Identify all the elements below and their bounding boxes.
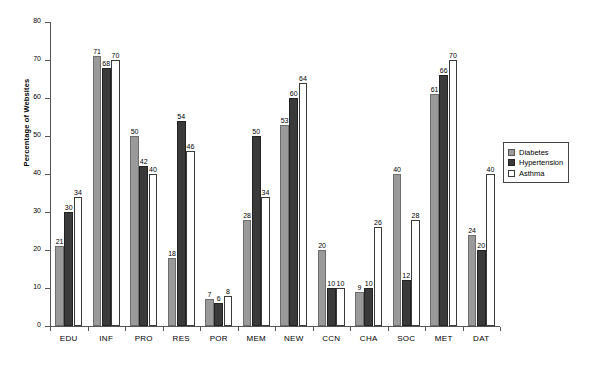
y-tick-60: 60	[45, 98, 50, 99]
x-label-ccn: CCN	[322, 334, 340, 343]
y-tick-label: 10	[33, 283, 41, 290]
bar-value-label: 50	[252, 128, 260, 136]
bar-new-asthma: 64	[299, 83, 308, 326]
bar-ccn-diabetes: 20	[318, 250, 327, 326]
bar-group-soc: 401228	[393, 22, 420, 326]
bar-group-por: 768	[205, 22, 232, 326]
bar-met-diabetes: 61	[430, 94, 439, 326]
bar-value-label: 40	[487, 166, 495, 174]
bar-value-label: 24	[468, 227, 476, 235]
bar-res-diabetes: 18	[168, 258, 177, 326]
bar-edu-hypertension: 30	[64, 212, 73, 326]
y-axis-line	[50, 22, 51, 327]
bar-chart: Percentage of Websites 01020304050607080…	[0, 0, 590, 375]
y-tick-label: 60	[33, 93, 41, 100]
x-tick	[500, 327, 501, 331]
bar-value-label: 71	[93, 48, 101, 56]
y-tick-20: 20	[45, 250, 50, 251]
bar-value-label: 8	[226, 288, 230, 296]
bar-dat-asthma: 40	[486, 174, 495, 326]
legend-item-hypertension[interactable]: Hypertension	[508, 158, 563, 167]
bar-value-label: 70	[449, 52, 457, 60]
x-tick	[275, 327, 276, 331]
bar-group-new: 536064	[280, 22, 307, 326]
bar-met-hypertension: 66	[439, 75, 448, 326]
y-tick-80: 80	[45, 22, 50, 23]
bar-value-label: 46	[187, 143, 195, 151]
bar-inf-hypertension: 68	[102, 68, 111, 326]
legend-swatch-icon	[508, 149, 515, 156]
x-tick	[425, 327, 426, 331]
bar-value-label: 66	[440, 67, 448, 75]
bar-value-label: 6	[217, 295, 221, 303]
bar-group-met: 616670	[430, 22, 457, 326]
bar-por-asthma: 8	[224, 296, 233, 326]
x-label-mem: MEM	[246, 334, 266, 343]
bar-res-asthma: 46	[186, 151, 195, 326]
bar-value-label: 7	[208, 291, 212, 299]
bar-value-label: 18	[168, 250, 176, 258]
bar-group-edu: 213034	[55, 22, 82, 326]
x-label-por: POR	[210, 334, 228, 343]
x-label-dat: DAT	[473, 334, 489, 343]
y-tick-label: 70	[33, 55, 41, 62]
x-tick	[350, 327, 351, 331]
bar-soc-asthma: 28	[411, 220, 420, 326]
bar-group-pro: 504240	[130, 22, 157, 326]
x-label-res: RES	[173, 334, 190, 343]
x-label-cha: CHA	[360, 334, 378, 343]
bar-value-label: 12	[402, 272, 410, 280]
bar-value-label: 50	[131, 128, 139, 136]
legend-label: Diabetes	[519, 148, 549, 157]
bar-met-asthma: 70	[449, 60, 458, 326]
bar-edu-diabetes: 21	[55, 246, 64, 326]
bar-ccn-asthma: 10	[336, 288, 345, 326]
bar-inf-diabetes: 71	[93, 56, 102, 326]
bar-value-label: 64	[299, 75, 307, 83]
chart-legend: DiabetesHypertensionAsthma	[503, 142, 569, 183]
bar-dat-diabetes: 24	[468, 235, 477, 326]
x-label-new: NEW	[284, 334, 304, 343]
bar-value-label: 70	[112, 52, 120, 60]
bar-value-label: 34	[74, 189, 82, 197]
bar-group-dat: 242040	[468, 22, 495, 326]
bar-por-diabetes: 7	[205, 299, 214, 326]
legend-item-asthma[interactable]: Asthma	[508, 169, 563, 178]
bar-value-label: 28	[412, 212, 420, 220]
y-tick-label: 0	[37, 321, 41, 328]
bar-value-label: 10	[337, 280, 345, 288]
x-label-soc: SOC	[397, 334, 415, 343]
bar-soc-diabetes: 40	[393, 174, 402, 326]
bar-group-ccn: 201010	[318, 22, 345, 326]
x-tick	[50, 327, 51, 331]
bar-value-label: 26	[374, 219, 382, 227]
bar-value-label: 54	[177, 113, 185, 121]
bar-value-label: 10	[327, 280, 335, 288]
x-label-pro: PRO	[135, 334, 153, 343]
x-label-inf: INF	[99, 334, 113, 343]
x-tick	[200, 327, 201, 331]
x-tick	[463, 327, 464, 331]
x-tick	[313, 327, 314, 331]
legend-item-diabetes[interactable]: Diabetes	[508, 148, 563, 157]
bar-pro-hypertension: 42	[139, 166, 148, 326]
x-tick	[238, 327, 239, 331]
bar-edu-asthma: 34	[74, 197, 83, 326]
bar-new-diabetes: 53	[280, 125, 289, 326]
bar-value-label: 28	[243, 212, 251, 220]
bar-dat-hypertension: 20	[477, 250, 486, 326]
x-tick	[125, 327, 126, 331]
y-tick-10: 10	[45, 288, 50, 289]
bar-value-label: 40	[393, 166, 401, 174]
y-tick-label: 40	[33, 169, 41, 176]
y-axis-title: Percentage of Websites	[22, 33, 31, 213]
legend-swatch-icon	[508, 159, 515, 166]
bar-res-hypertension: 54	[177, 121, 186, 326]
bar-cha-asthma: 26	[374, 227, 383, 326]
legend-label: Asthma	[519, 169, 544, 178]
bar-soc-hypertension: 12	[402, 280, 411, 326]
x-tick	[388, 327, 389, 331]
bar-cha-diabetes: 9	[355, 292, 364, 326]
bar-group-inf: 716870	[93, 22, 120, 326]
bar-mem-diabetes: 28	[243, 220, 252, 326]
